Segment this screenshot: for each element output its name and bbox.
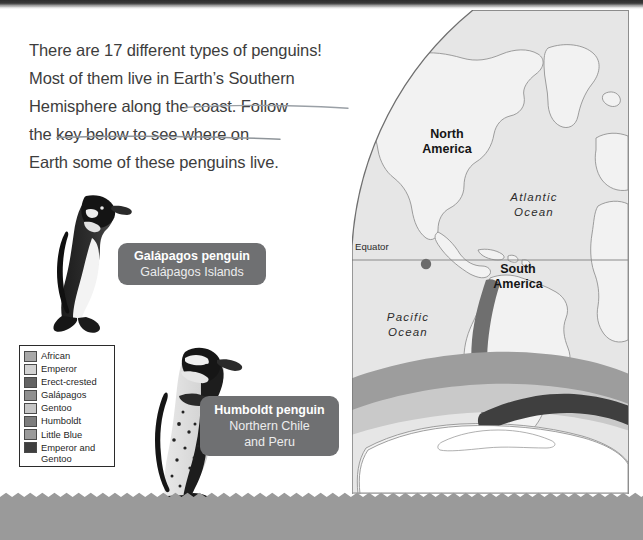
legend-item-emperor-and-gentoo: Emperor and Gentoo bbox=[24, 442, 110, 468]
legend-label-humboldt: Humboldt bbox=[41, 415, 81, 427]
callout-humboldt-title: Humboldt penguin bbox=[208, 402, 331, 418]
legend-swatch-african bbox=[24, 351, 37, 362]
legend-swatch-little-blue bbox=[24, 429, 37, 440]
callout-galapagos-title: Galápagos penguin bbox=[126, 248, 258, 264]
legend-item-african: African bbox=[24, 350, 110, 363]
galapagos-marker-icon bbox=[421, 259, 431, 269]
legend-swatch-emperor-and-gentoo bbox=[24, 442, 37, 453]
callout-galapagos-penguin: Galápagos penguin Galápagos Islands bbox=[118, 243, 266, 285]
legend-item-erect-crested: Erect-crested bbox=[24, 376, 110, 389]
handdrawn-underline-2 bbox=[56, 135, 281, 140]
legend-swatch-galapagos bbox=[24, 390, 37, 401]
legend-label-erect-crested: Erect-crested bbox=[41, 376, 97, 388]
legend-label-gentoo: Gentoo bbox=[41, 402, 72, 414]
intro-line-2: Most of them live in Earth’s Southern bbox=[29, 64, 349, 92]
legend-swatch-emperor bbox=[24, 364, 37, 375]
callout-galapagos-subtitle: Galápagos Islands bbox=[126, 264, 258, 280]
legend-item-little-blue: Little Blue bbox=[24, 429, 110, 442]
legend-item-emperor: Emperor bbox=[24, 363, 110, 376]
map-label-equator: Equator bbox=[355, 241, 389, 252]
legend-swatch-humboldt bbox=[24, 416, 37, 427]
callout-humboldt-subtitle: Northern Chile and Peru bbox=[208, 418, 331, 450]
handdrawn-underline-1 bbox=[184, 104, 349, 109]
globe-disc bbox=[352, 10, 628, 494]
legend-label-galapagos: Galápagos bbox=[41, 389, 86, 401]
legend-item-galapagos: Galápagos bbox=[24, 389, 110, 402]
page-top-edge-shadow bbox=[0, 0, 643, 7]
intro-line-1: There are 17 different types of penguins… bbox=[29, 36, 349, 64]
legend-label-little-blue: Little Blue bbox=[41, 429, 82, 441]
page-root: North America South America Atlantic Oce… bbox=[0, 0, 643, 540]
legend-label-emperor: Emperor bbox=[41, 363, 77, 375]
intro-line-4: the key below to see where on bbox=[29, 120, 349, 148]
map-label-pacific-ocean: Pacific Ocean bbox=[366, 310, 450, 340]
species-key-legend: African Emperor Erect-crested Galápagos … bbox=[19, 345, 115, 467]
legend-item-gentoo: Gentoo bbox=[24, 402, 110, 415]
map-label-south-america: South America bbox=[480, 262, 556, 292]
map-label-north-america: North America bbox=[409, 127, 485, 157]
legend-swatch-gentoo bbox=[24, 403, 37, 414]
legend-item-humboldt: Humboldt bbox=[24, 415, 110, 428]
callout-humboldt-penguin: Humboldt penguin Northern Chile and Peru bbox=[200, 396, 339, 456]
world-map-panel: North America South America Atlantic Oce… bbox=[352, 10, 629, 494]
intro-line-5: Earth some of these penguins live. bbox=[29, 148, 349, 176]
legend-label-african: African bbox=[41, 350, 70, 362]
bottom-scalloped-band bbox=[0, 491, 643, 540]
map-label-atlantic-ocean: Atlantic Ocean bbox=[492, 190, 576, 220]
intro-paragraph: There are 17 different types of penguins… bbox=[29, 36, 349, 176]
legend-swatch-erect-crested bbox=[24, 377, 37, 388]
legend-label-emperor-and-gentoo: Emperor and Gentoo bbox=[41, 442, 95, 465]
